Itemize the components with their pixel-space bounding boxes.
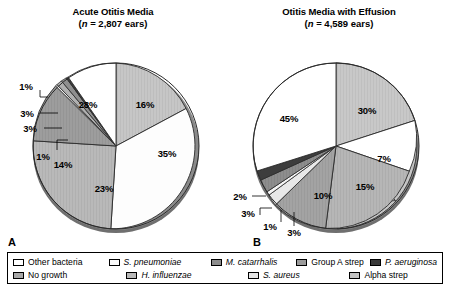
pie-b-label-30: 30% xyxy=(358,105,376,116)
legend-item-p-aeruginosa: P. aeruginosa xyxy=(370,258,437,267)
panel-letter-b: B xyxy=(253,236,261,248)
pie-b-label-7: 7% xyxy=(377,153,390,164)
legend-swatch-no-growth xyxy=(13,272,24,279)
pie-b-svg xyxy=(226,0,452,245)
legend-item-alpha-strep: Alpha strep xyxy=(349,271,437,280)
legend-item-s-pneumoniae: S. pneumoniae xyxy=(109,258,211,267)
legend-swatch-p-aeruginosa xyxy=(370,259,381,266)
legend-row-1: Other bacteria S. pneumoniae M. catarrha… xyxy=(13,256,437,269)
legend-swatch-s-pneumoniae xyxy=(109,259,120,266)
pie-b-label-45: 45% xyxy=(280,113,298,124)
legend-item-s-aureus: S. aureus xyxy=(248,271,350,280)
legend-swatch-other-bacteria xyxy=(13,259,24,266)
legend-label-no-growth: No growth xyxy=(28,271,67,280)
pie-b-label-15: 15% xyxy=(356,181,374,192)
pie-b-leader-label-1: 2% xyxy=(233,191,246,202)
pie-b-label-10: 10% xyxy=(314,190,332,201)
legend-swatch-s-aureus xyxy=(248,272,259,279)
pie-a: 16% 35% 23% 14% 28% 1% 3% 3% 1% xyxy=(0,0,226,245)
pie-a-label-14: 14% xyxy=(54,159,72,170)
pie-a-label-16: 16% xyxy=(136,99,154,110)
legend: Other bacteria S. pneumoniae M. catarrha… xyxy=(7,252,443,284)
pie-a-label-35: 35% xyxy=(158,148,176,159)
chart-panel-acute-otitis-media: Acute Otitis Media (n = 2,807 ears) xyxy=(0,0,226,245)
pie-b-leader-label-4: 3% xyxy=(287,227,300,238)
legend-item-m-catarrhalis: M. catarrhalis xyxy=(211,258,297,267)
pie-a-leader-label-2: 3% xyxy=(20,108,33,119)
legend-item-other-bacteria: Other bacteria xyxy=(13,258,109,267)
legend-label-p-aeruginosa: P. aeruginosa xyxy=(385,258,437,267)
figure-two-pie-charts: Acute Otitis Media (n = 2,807 ears) xyxy=(0,0,455,293)
legend-swatch-m-catarrhalis xyxy=(211,259,222,266)
legend-swatch-group-a-strep xyxy=(296,259,307,266)
pie-a-leader-label-3: 3% xyxy=(23,123,36,134)
legend-label-group-a-strep: Group A strep xyxy=(311,258,364,267)
pie-a-label-23: 23% xyxy=(95,183,113,194)
pie-b-leader-label-3: 1% xyxy=(263,221,276,232)
legend-label-other-bacteria: Other bacteria xyxy=(28,258,82,267)
legend-item-group-a-strep: Group A strep xyxy=(296,258,370,267)
legend-swatch-h-influenzae xyxy=(126,272,137,279)
legend-item-no-growth: No growth xyxy=(13,271,126,280)
legend-label-m-catarrhalis: M. catarrhalis xyxy=(226,258,278,267)
legend-label-h-influenzae: H. influenzae xyxy=(141,271,191,280)
legend-label-s-aureus: S. aureus xyxy=(263,271,300,280)
chart-panel-otitis-media-with-effusion: Otitis Media with Effusion (n = 4,589 ea… xyxy=(226,0,452,245)
legend-swatch-alpha-strep xyxy=(349,272,360,279)
pie-b-leader-label-2: 3% xyxy=(241,208,254,219)
pie-a-label-28: 28% xyxy=(79,99,97,110)
legend-item-h-influenzae: H. influenzae xyxy=(126,271,247,280)
pie-a-leader-label-1: 1% xyxy=(19,81,32,92)
panel-letter-a: A xyxy=(8,236,16,248)
legend-label-s-pneumoniae: S. pneumoniae xyxy=(124,258,182,267)
pie-a-leader-label-4: 1% xyxy=(36,151,49,162)
legend-label-alpha-strep: Alpha strep xyxy=(364,271,407,280)
pie-b: 30% 7% 15% 10% 45% 2% 3% 1% 3% xyxy=(226,0,452,245)
legend-row-2: No growth H. influenzae S. aureus Alpha … xyxy=(13,269,437,282)
